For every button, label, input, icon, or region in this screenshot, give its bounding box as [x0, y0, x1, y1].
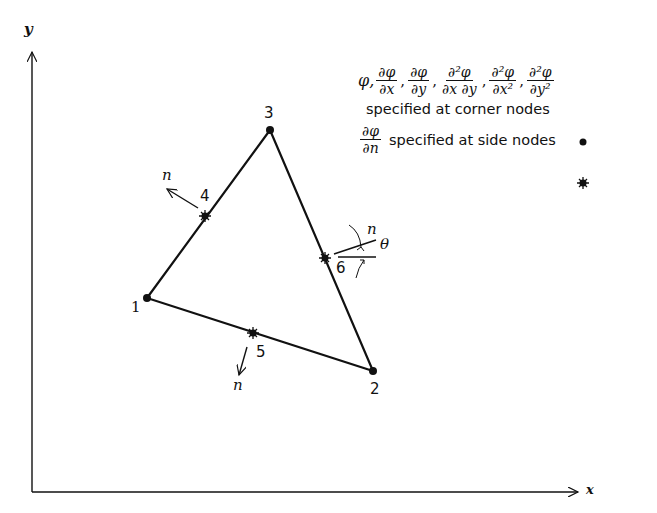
y-axis-label: y — [24, 20, 33, 38]
node-label-6: 6 — [336, 259, 346, 277]
side-text: specified at side nodes — [389, 132, 556, 148]
x-axis-label: x — [586, 482, 594, 497]
legend: φ, ∂φ∂x, ∂φ∂y, ∂²φ∂x ∂y, ∂²φ∂x², ∂²φ∂y² … — [358, 64, 657, 156]
node-label-4: 4 — [200, 187, 210, 205]
dphi-dy: ∂φ∂y — [408, 64, 429, 97]
corner-dof-list: φ, ∂φ∂x, ∂φ∂y, ∂²φ∂x ∂y, ∂²φ∂x², ∂²φ∂y² — [358, 64, 657, 97]
node-label-3: 3 — [264, 104, 274, 122]
node-label-2: 2 — [370, 380, 380, 398]
side-nodes-caption: ∂φ∂n specified at side nodes — [358, 123, 657, 156]
normal-arrow-4 — [167, 189, 198, 208]
corner-nodes-caption: specified at corner nodes — [358, 101, 657, 117]
corner-node-2 — [369, 367, 377, 375]
d2phi-dy2: ∂²φ∂y² — [527, 64, 554, 97]
d2phi-dxdy: ∂²φ∂x ∂y — [440, 64, 479, 97]
normal-label-6: n — [367, 220, 377, 238]
normal-label-4: n — [162, 166, 172, 184]
legend-side-marker — [577, 177, 589, 189]
side-node-6 — [319, 252, 331, 264]
angle-theta-label: θ — [380, 235, 389, 253]
dphi-dx: ∂φ∂x — [376, 64, 397, 97]
angle-arc-top — [349, 225, 361, 247]
corner-node-3 — [266, 126, 274, 134]
d2phi-dx2: ∂²φ∂x² — [489, 64, 516, 97]
normal-arrow-5 — [239, 347, 247, 375]
triangle-element — [147, 130, 373, 371]
phi-symbol: φ, — [358, 71, 374, 90]
corner-text: specified at corner nodes — [366, 101, 550, 117]
side-node-5 — [247, 327, 259, 339]
normal-line-6 — [334, 240, 376, 254]
corner-node-1 — [143, 294, 151, 302]
normal-label-5: n — [233, 376, 243, 394]
angle-arc-bottom — [356, 260, 364, 278]
node-label-5: 5 — [256, 343, 266, 361]
node-label-1: 1 — [131, 298, 141, 316]
dphi-dn: ∂φ∂n — [360, 123, 381, 156]
